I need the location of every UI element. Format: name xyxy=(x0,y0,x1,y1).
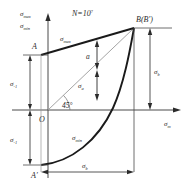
point-label-A-prime: A′ xyxy=(30,171,38,180)
angle-label-45-degrees: 45° xyxy=(62,101,73,110)
dimension-sigma-b-right xyxy=(148,28,152,110)
dimension-label-sigma-b-right: σb xyxy=(154,68,160,77)
dimension-label-sigma-minus-1-upper: σ-1 xyxy=(10,80,17,89)
dimension-label-sigma-b-bottom: σb xyxy=(82,162,88,171)
point-label-B: B(B′) xyxy=(136,15,153,24)
dimension-sigma-a xyxy=(95,70,99,101)
dimension-label-a: a xyxy=(86,52,90,61)
annotation-cycle-count: N=107 xyxy=(71,9,94,18)
dimension-sigma-minus-1-lower xyxy=(28,110,32,165)
y-axis-arrowhead xyxy=(45,13,50,21)
y-axis-label-sigma-max: σmax xyxy=(20,10,31,19)
x-axis-label: σm xyxy=(164,120,171,129)
dimension-sigma-minus-1-upper xyxy=(28,55,32,110)
x-axis-arrowhead xyxy=(173,107,181,112)
sigma-min-curve xyxy=(41,28,134,165)
curve-label-sigma-min: σmin xyxy=(72,134,83,143)
point-label-A: A xyxy=(31,42,37,51)
fatigue-diagram: σmax σmin N=107 B(B′) A A′ O σmax σmin a… xyxy=(0,0,192,189)
y-axis-label-sigma-min: σmin xyxy=(20,22,31,31)
curve-label-sigma-max: σmax xyxy=(60,35,71,44)
origin-label: O xyxy=(39,115,45,124)
dimension-a xyxy=(95,40,99,70)
dimension-label-sigma-minus-1-lower: σ-1 xyxy=(10,136,17,145)
dimension-label-sigma-a: σa xyxy=(78,82,84,91)
